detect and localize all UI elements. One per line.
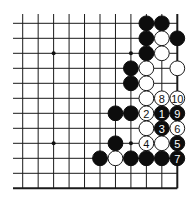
black-stone-icon — [124, 61, 139, 76]
black-stone — [170, 31, 185, 46]
black-stone-icon — [139, 31, 154, 46]
white-stone-icon — [170, 61, 185, 76]
black-stone-icon — [139, 151, 154, 166]
move-number: 2 — [143, 108, 149, 120]
star-point-icon — [52, 51, 56, 55]
black-stone-icon — [154, 151, 169, 166]
move-number: 6 — [174, 123, 180, 135]
move-number: 5 — [174, 138, 180, 150]
black-stone — [124, 151, 139, 166]
white-stone-icon — [139, 91, 154, 106]
black-stone-icon — [93, 151, 108, 166]
black-stone — [139, 151, 154, 166]
white-stone — [154, 46, 169, 61]
white-stone-move-6: 6 — [170, 121, 185, 136]
black-stone-icon — [170, 31, 185, 46]
white-stone-move-4: 4 — [139, 136, 154, 151]
black-stone-icon — [108, 136, 123, 151]
black-stone-icon — [154, 16, 169, 31]
black-stone-icon — [124, 106, 139, 121]
black-stone-move-9: 9 — [170, 106, 185, 121]
white-stone-icon — [139, 76, 154, 91]
white-stone-icon — [154, 31, 169, 46]
black-stone — [139, 16, 154, 31]
black-stone-move-3: 3 — [154, 121, 169, 136]
black-stone — [108, 106, 123, 121]
white-stone-icon — [108, 151, 123, 166]
white-stone — [108, 151, 123, 166]
black-stone — [154, 151, 169, 166]
black-stone-move-1: 1 — [154, 106, 169, 121]
move-number: 10 — [171, 93, 183, 105]
black-stone — [124, 76, 139, 91]
move-number: 7 — [174, 153, 180, 165]
black-stone — [154, 16, 169, 31]
white-stone-icon — [154, 46, 169, 61]
black-stone — [108, 136, 123, 151]
star-point-icon — [129, 51, 133, 55]
black-stone-icon — [124, 151, 139, 166]
white-stone-icon — [154, 136, 169, 151]
black-stone-icon — [139, 16, 154, 31]
black-stone-icon — [108, 106, 123, 121]
white-stone — [139, 76, 154, 91]
move-number: 4 — [143, 138, 149, 150]
white-stone-icon — [139, 61, 154, 76]
white-stone — [139, 121, 154, 136]
black-stone-move-7: 7 — [170, 151, 185, 166]
black-stone-icon — [124, 76, 139, 91]
star-point-icon — [52, 141, 56, 145]
black-stone — [93, 151, 108, 166]
move-number: 3 — [159, 123, 165, 135]
move-number: 8 — [159, 93, 165, 105]
white-stone — [139, 91, 154, 106]
black-stone-move-5: 5 — [170, 136, 185, 151]
move-number: 1 — [159, 108, 165, 120]
white-stone-move-2: 2 — [139, 106, 154, 121]
white-stone — [154, 31, 169, 46]
black-stone-icon — [139, 46, 154, 61]
black-stone — [139, 31, 154, 46]
star-point-icon — [129, 141, 133, 145]
white-stone-move-8: 8 — [154, 91, 169, 106]
white-stone — [170, 61, 185, 76]
black-stone — [139, 46, 154, 61]
white-stone-icon — [139, 121, 154, 136]
white-stone-move-10: 10 — [170, 91, 185, 106]
move-number: 9 — [174, 108, 180, 120]
go-diagram: 81021936457 — [0, 0, 195, 202]
black-stone — [124, 106, 139, 121]
go-board: 81021936457 — [0, 0, 195, 202]
white-stone — [139, 61, 154, 76]
black-stone — [124, 61, 139, 76]
white-stone — [154, 136, 169, 151]
